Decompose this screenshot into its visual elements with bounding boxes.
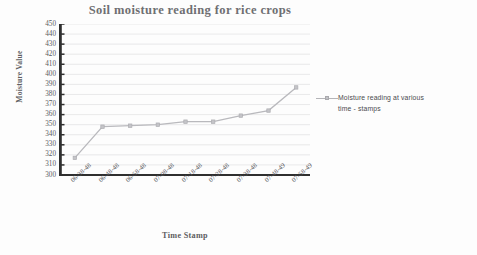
legend-marker-dot	[325, 96, 329, 100]
y-axis-tick-label: 400	[32, 71, 56, 78]
y-axis-tick-label: 450	[32, 21, 56, 28]
y-axis-tick-label: 320	[32, 151, 56, 158]
legend-entry: Moisture reading at various time - stamp…	[316, 93, 474, 114]
x-axis-tick-labels: 06-38-4806-48-4806-58-4807-08-4807-18-48…	[59, 178, 314, 226]
y-axis-tick-label: 390	[32, 81, 56, 88]
data-point-marker	[128, 124, 131, 127]
y-axis-tick-labels: 3003103203303403503603703803904004104204…	[32, 24, 56, 176]
legend-label-line-1: Moisture reading at various	[338, 94, 424, 101]
chart-container: Soil moisture reading for rice crops Moi…	[0, 0, 477, 255]
y-axis-tick-label: 420	[32, 51, 56, 58]
y-axis-tick-label: 440	[32, 31, 56, 38]
data-point-marker	[184, 120, 187, 123]
x-axis-title: Time Stamp	[60, 231, 310, 240]
gridlines	[61, 24, 310, 165]
data-point-marker	[211, 120, 214, 123]
data-point-marker	[239, 114, 242, 117]
data-point-marker	[267, 109, 270, 112]
plot-svg	[59, 24, 310, 176]
y-axis-tick-label: 370	[32, 101, 56, 108]
y-axis-tick-label: 410	[32, 61, 56, 68]
y-axis-tick-label: 330	[32, 141, 56, 148]
y-axis-tick-label: 350	[32, 121, 56, 128]
data-point-marker	[156, 123, 159, 126]
legend-line-marker-icon	[316, 94, 338, 104]
y-axis-tick-label: 360	[32, 111, 56, 118]
legend-label: Moisture reading at various time - stamp…	[338, 93, 424, 114]
y-axis-tick-label: 340	[32, 131, 56, 138]
chart-legend: Moisture reading at various time - stamp…	[316, 93, 474, 114]
data-point-marker	[73, 156, 76, 159]
y-axis-tick-label: 310	[32, 161, 56, 168]
data-point-marker	[294, 86, 297, 89]
plot-area	[59, 24, 310, 176]
y-axis-tick-label: 430	[32, 41, 56, 48]
chart-title: Soil moisture reading for rice crops	[60, 3, 320, 18]
data-series-markers	[73, 86, 298, 160]
y-axis-tick-label: 380	[32, 91, 56, 98]
y-axis-tick-label: 300	[32, 172, 56, 179]
y-axis-title: Moisture Value	[15, 32, 24, 122]
legend-label-line-2: time - stamps	[338, 105, 381, 112]
data-point-marker	[101, 125, 104, 128]
